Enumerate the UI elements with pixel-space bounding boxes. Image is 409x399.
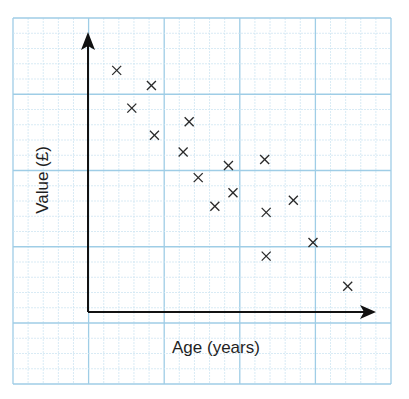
cross-marker-icon xyxy=(308,238,317,247)
cross-marker-icon xyxy=(179,147,188,156)
cross-marker-icon xyxy=(289,196,298,205)
cross-marker-icon xyxy=(194,173,203,182)
cross-marker-icon xyxy=(127,104,136,113)
cross-marker-icon xyxy=(228,188,237,197)
graph-paper-grid xyxy=(13,18,391,384)
cross-marker-icon xyxy=(224,161,233,170)
cross-marker-icon xyxy=(262,208,271,217)
cross-marker-icon xyxy=(150,131,159,140)
cross-marker-icon xyxy=(262,252,271,261)
cross-marker-icon xyxy=(343,282,352,291)
axes xyxy=(81,32,376,319)
cross-marker-icon xyxy=(210,202,219,211)
cross-marker-icon xyxy=(147,81,156,90)
cross-marker-icon xyxy=(185,117,194,126)
cross-marker-icon xyxy=(260,155,269,164)
data-points xyxy=(112,66,352,291)
y-axis-label: Value (£) xyxy=(33,146,53,214)
cross-marker-icon xyxy=(112,66,121,75)
x-axis-label: Age (years) xyxy=(172,338,260,358)
